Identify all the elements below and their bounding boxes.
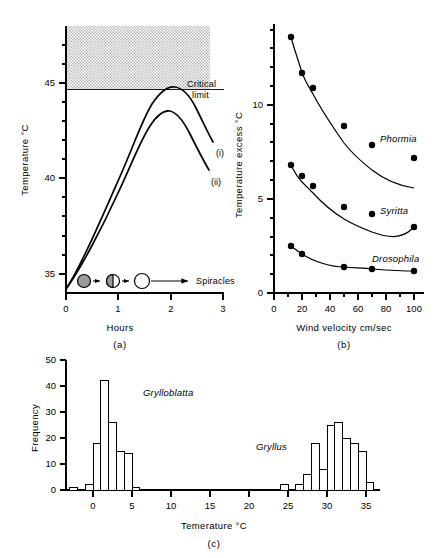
gryllus-label: Gryllus <box>256 441 287 452</box>
panel-c: 0 10 20 30 40 50 0 5 10 15 20 25 3 <box>28 352 435 558</box>
panel-b-xtick-100: 100 <box>406 303 422 314</box>
panel-a: 35 40 45 0 1 2 3 (i) (ii) Critical li <box>0 0 232 352</box>
panel-c-ylabel: Frequency <box>29 404 40 452</box>
table-row <box>116 451 124 490</box>
curve-ii <box>66 111 209 289</box>
panel-c-xtick-10: 10 <box>166 500 177 511</box>
panel-b-x-ticks <box>274 293 414 300</box>
table-row <box>350 443 358 490</box>
panel-a-y-ticks <box>59 45 66 274</box>
panel-a-ytick-40: 40 <box>44 172 55 183</box>
table-row <box>311 443 319 490</box>
table-row <box>343 438 351 490</box>
panel-b-xtick-0: 0 <box>271 303 276 314</box>
phormia-label: Phormia <box>380 133 417 144</box>
panel-c-caption: (c) <box>208 538 221 549</box>
panel-c-ytick-10: 10 <box>45 458 56 469</box>
figure-root: 35 40 45 0 1 2 3 (i) (ii) Critical li <box>0 0 435 558</box>
curve-ii-label: (ii) <box>211 177 221 187</box>
panel-b-xlabel: Wind velocity cm/sec <box>296 322 392 333</box>
panel-c-xtick-5: 5 <box>129 500 134 511</box>
panel-a-svg: 35 40 45 0 1 2 3 (i) (ii) Critical li <box>0 0 232 352</box>
table-row <box>296 485 304 490</box>
panel-b-ytick-0: 0 <box>258 287 263 298</box>
panel-a-xtick-1: 1 <box>115 303 120 314</box>
panel-b-ylabel: Temperature excess °C <box>233 112 244 218</box>
panel-b-xtick-80: 80 <box>381 303 392 314</box>
drosophila-label: Drosophila <box>372 253 419 264</box>
table-row <box>335 422 343 490</box>
spiracle-half-fill <box>107 275 113 288</box>
table-row <box>327 425 335 490</box>
table-row <box>304 474 312 490</box>
table-row <box>280 485 288 490</box>
table-row <box>319 469 327 490</box>
panel-c-xtick-25: 25 <box>283 500 294 511</box>
panel-c-ytick-0: 0 <box>51 484 56 495</box>
panel-c-ytick-30: 30 <box>45 406 56 417</box>
panel-b-svg: 0 5 10 0 20 40 60 80 100 <box>228 0 435 352</box>
table-row <box>101 381 109 490</box>
phormia-curve <box>291 37 414 188</box>
panel-c-xtick-0: 0 <box>90 500 95 511</box>
panel-b-xtick-20: 20 <box>297 303 308 314</box>
spiracle-open-icon <box>135 274 150 289</box>
panel-a-xtick-0: 0 <box>63 303 68 314</box>
panel-a-xtick-3: 3 <box>220 303 225 314</box>
panel-b-caption: (b) <box>337 339 350 350</box>
panel-c-ytick-40: 40 <box>45 380 56 391</box>
critical-limit-label-line2: limit <box>192 90 209 100</box>
panel-b-xtick-60: 60 <box>353 303 364 314</box>
gryllus-bars <box>280 422 374 490</box>
panel-a-ytick-45: 45 <box>44 77 55 88</box>
curve-i <box>66 87 213 289</box>
panel-a-caption: (a) <box>113 339 126 350</box>
table-row <box>109 422 117 490</box>
panel-c-ytick-50: 50 <box>45 354 56 365</box>
critical-limit-label-line1: Critical <box>187 79 216 89</box>
panel-b: 0 5 10 0 20 40 60 80 100 <box>228 0 435 352</box>
panel-c-x-ticks <box>93 490 366 497</box>
panel-c-svg: 0 10 20 30 40 50 0 5 10 15 20 25 3 <box>28 352 435 558</box>
spiracle-diagram: Spiracles <box>78 274 236 289</box>
table-row <box>124 454 132 490</box>
panel-b-xtick-40: 40 <box>325 303 336 314</box>
panel-a-xlabel: Hours <box>106 322 133 333</box>
panel-a-x-ticks <box>66 293 223 300</box>
panel-c-xtick-30: 30 <box>322 500 333 511</box>
panel-c-ytick-20: 20 <box>45 432 56 443</box>
panel-c-xtick-20: 20 <box>244 500 255 511</box>
grylloblatta-label: Grylloblatta <box>143 387 193 398</box>
panel-b-ytick-5: 5 <box>258 193 263 204</box>
panel-b-y-ticks <box>267 30 274 293</box>
syritta-label: Syritta <box>380 205 408 216</box>
panel-b-ytick-10: 10 <box>252 99 263 110</box>
table-row <box>70 487 78 490</box>
table-row <box>93 443 101 490</box>
panel-c-xtick-35: 35 <box>361 500 372 511</box>
grylloblatta-bars <box>70 381 140 490</box>
table-row <box>132 487 140 490</box>
table-row <box>85 485 93 490</box>
panel-a-ylabel: Temperature °C <box>19 124 30 196</box>
panel-a-xtick-2: 2 <box>168 303 173 314</box>
syritta-points <box>288 162 417 230</box>
panel-c-xlabel: Temerature °C <box>181 520 247 531</box>
table-row <box>366 482 374 490</box>
table-row <box>358 451 366 490</box>
panel-a-ytick-35: 35 <box>44 268 55 279</box>
panel-c-y-ticks <box>60 360 66 490</box>
panel-c-xtick-15: 15 <box>205 500 216 511</box>
syritta-curve <box>291 165 414 237</box>
curve-i-label: (i) <box>216 148 224 158</box>
spiracle-closed-icon <box>78 275 91 288</box>
